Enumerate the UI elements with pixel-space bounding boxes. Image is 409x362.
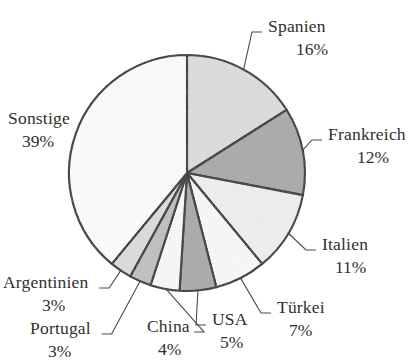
slice-label-portugal: Portugal — [30, 318, 91, 338]
slice-label-t-rkei: Türkei — [277, 297, 325, 317]
slice-value-argentinien: 3% — [42, 295, 65, 315]
slice-value-china: 4% — [158, 339, 181, 359]
slice-value-t-rkei: 7% — [289, 320, 312, 340]
slice-value-portugal: 3% — [48, 341, 71, 361]
slice-value-italien: 11% — [335, 257, 366, 277]
slice-value-sonstige: 39% — [22, 131, 54, 151]
pie-chart-canvas: Spanien16%Frankreich12%Italien11%Türkei7… — [0, 0, 409, 362]
slice-label-argentinien: Argentinien — [3, 272, 89, 292]
slice-value-spanien: 16% — [296, 39, 328, 59]
pie-chart-figure: Spanien16%Frankreich12%Italien11%Türkei7… — [0, 0, 409, 362]
slice-label-usa: USA — [212, 309, 248, 329]
pie-slices-group — [69, 55, 305, 291]
slice-value-usa: 5% — [220, 332, 243, 352]
slice-label-sonstige: Sonstige — [8, 108, 70, 128]
slice-label-frankreich: Frankreich — [328, 124, 406, 144]
slice-label-spanien: Spanien — [268, 16, 326, 36]
slice-label-italien: Italien — [322, 234, 368, 254]
slice-label-china: China — [147, 316, 190, 336]
slice-value-frankreich: 12% — [357, 147, 389, 167]
